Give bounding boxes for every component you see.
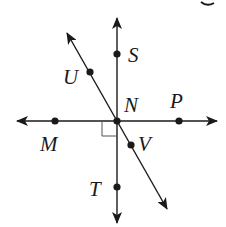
geometry-diagram: S U N P M V T bbox=[0, 0, 226, 227]
point-T bbox=[113, 183, 120, 190]
label-T: T bbox=[89, 177, 102, 201]
label-S: S bbox=[128, 43, 139, 67]
point-V bbox=[127, 141, 134, 148]
label-M: M bbox=[39, 132, 59, 156]
point-N bbox=[113, 117, 120, 124]
point-S bbox=[113, 50, 120, 57]
point-M bbox=[51, 117, 58, 124]
label-U: U bbox=[63, 65, 80, 89]
point-P bbox=[175, 117, 182, 124]
partial-glyph bbox=[201, 2, 214, 5]
label-N: N bbox=[123, 93, 139, 117]
label-V: V bbox=[138, 132, 153, 156]
point-U bbox=[86, 68, 93, 75]
label-P: P bbox=[169, 89, 183, 113]
